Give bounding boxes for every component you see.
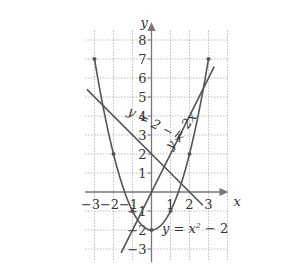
plotted-point [150, 228, 154, 232]
label-y-equals-x-squared-minus-2: y = x2 − 2 [161, 221, 228, 236]
x-axis-arrow-icon [219, 188, 228, 196]
plotted-point [131, 209, 135, 213]
plotted-point [112, 152, 116, 156]
x-tick-label: 3 [204, 197, 212, 212]
y-tick-label: 8 [138, 33, 146, 48]
x-tick-label: −2 [100, 197, 119, 212]
function-graph: xy−3−2−112387654321−1−2−3y = 2 − xy = 2x… [0, 0, 298, 279]
y-tick-label: 5 [138, 90, 146, 105]
y-axis-arrow-icon [148, 22, 156, 31]
y-tick-label: 1 [138, 166, 146, 181]
x-axis-label: x [233, 194, 241, 209]
plotted-point [93, 57, 97, 61]
y-tick-label: −3 [127, 242, 146, 257]
plotted-point [207, 57, 211, 61]
y-tick-label: 3 [138, 128, 146, 143]
x-tick-label: −3 [81, 197, 100, 212]
y-tick-label: 6 [138, 71, 146, 86]
line-y-equals-2-minus-x [87, 89, 203, 205]
y-tick-label: 7 [138, 52, 146, 67]
x-tick-label: 2 [185, 197, 193, 212]
plotted-point [169, 209, 173, 213]
y-axis-label: y [140, 15, 149, 30]
plotted-point [188, 152, 192, 156]
